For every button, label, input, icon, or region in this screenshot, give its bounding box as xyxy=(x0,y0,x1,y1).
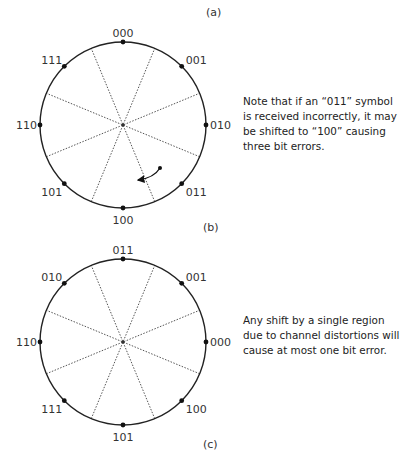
panel-label: (b) xyxy=(203,221,219,234)
symbol-point xyxy=(179,281,184,286)
symbol-label: 100 xyxy=(113,214,134,227)
symbol-point xyxy=(121,423,126,428)
symbol-point xyxy=(204,123,209,128)
symbol-point xyxy=(62,398,67,403)
symbol-point xyxy=(121,40,126,45)
note-gray-coding: Any shift by a single region due to chan… xyxy=(243,313,403,358)
symbol-label: 000 xyxy=(210,336,231,349)
symbol-label: 100 xyxy=(186,403,207,416)
symbol-point xyxy=(38,340,43,345)
shift-arrow-icon xyxy=(138,168,160,180)
origin-dot xyxy=(121,123,124,126)
origin-dot xyxy=(121,340,124,343)
symbol-point xyxy=(179,64,184,69)
symbol-label: 010 xyxy=(210,119,231,132)
panel-label: (a) xyxy=(206,6,221,19)
symbol-label: 110 xyxy=(16,119,37,132)
symbol-label: 011 xyxy=(186,186,207,199)
symbol-label: 101 xyxy=(113,431,134,444)
panel-label: (c) xyxy=(203,438,218,451)
symbol-label: 110 xyxy=(16,336,37,349)
symbol-label: 011 xyxy=(113,244,134,257)
symbol-label: 111 xyxy=(41,54,62,67)
symbol-label: 010 xyxy=(41,271,62,284)
symbol-point xyxy=(179,398,184,403)
symbol-point xyxy=(179,181,184,186)
symbol-point xyxy=(62,281,67,286)
constellation-figure: 000001010011100101110111(a)(b)0110010001… xyxy=(0,0,406,471)
symbol-label: 001 xyxy=(186,54,207,67)
symbol-label: 101 xyxy=(41,186,62,199)
symbol-point xyxy=(121,257,126,262)
symbol-point xyxy=(62,181,67,186)
symbol-point xyxy=(121,206,126,211)
symbol-label: 000 xyxy=(113,27,134,40)
symbol-point xyxy=(204,340,209,345)
symbol-label: 111 xyxy=(41,403,62,416)
symbol-label: 001 xyxy=(186,271,207,284)
symbol-point xyxy=(62,64,67,69)
symbol-point xyxy=(38,123,43,128)
note-natural-coding: Note that if an “011” symbol is received… xyxy=(243,94,403,154)
